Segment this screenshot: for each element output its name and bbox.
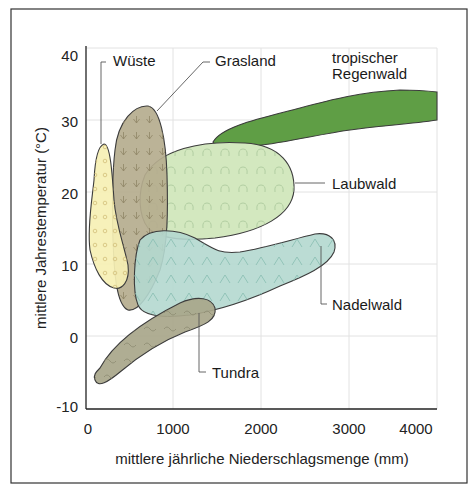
label-regenwald-line1: tropischer [332,49,398,66]
y-tick-10: 10 [61,257,78,274]
x-tick-3000: 3000 [332,420,365,437]
y-tick-minus10: -10 [56,398,78,415]
label-grasland: Grasland [215,52,276,69]
x-tick-4000: 4000 [399,420,432,437]
label-regenwald-line2: Regenwald [332,65,407,82]
x-tick-1000: 1000 [156,420,189,437]
x-axis-label: mittlere jährliche Niederschlagsmenge (m… [115,450,408,467]
y-tick-40: 40 [61,47,78,64]
label-laubwald: Laubwald [332,175,396,192]
label-nadelwald: Nadelwald [332,296,402,313]
y-tick-20: 20 [61,185,78,202]
label-wueste: Wüste [113,52,156,69]
label-tundra: Tundra [212,364,260,381]
y-tick-0: 0 [70,329,78,346]
biome-climate-diagram: 40 30 20 10 0 -10 0 1000 2000 3000 4000 … [0,0,475,496]
y-tick-30: 30 [61,113,78,130]
x-tick-2000: 2000 [244,420,277,437]
x-tick-0: 0 [84,420,92,437]
y-axis-label: mittlere Jahrestemperatur (°C) [32,127,49,329]
